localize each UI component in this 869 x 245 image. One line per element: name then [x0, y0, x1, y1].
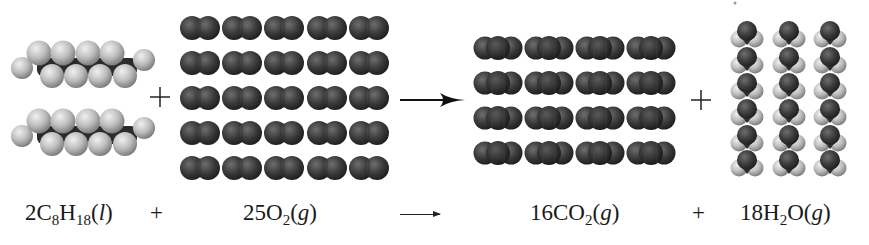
state-symbol: g	[600, 200, 612, 225]
plus-sign: +	[150, 198, 163, 228]
state-symbol: g	[298, 200, 310, 225]
subscript: 2	[283, 212, 291, 228]
plus-icon	[691, 90, 711, 110]
oxygen-molecules-grid	[180, 16, 389, 180]
element: CO	[553, 200, 585, 225]
reaction-diagram: 2C8H18(l) + 25O2(g) 16CO2(g) + 18H2O(g)	[0, 0, 869, 245]
octane-molecules	[11, 41, 155, 157]
coefficient: 2	[25, 200, 37, 225]
plus-icon	[150, 87, 170, 107]
octane-molecule	[11, 109, 155, 157]
state-symbol: g	[811, 200, 823, 225]
equation-carbon-dioxide: 16CO2(g)	[530, 198, 619, 228]
equation-oxygen: 25O2(g)	[243, 198, 317, 228]
coefficient: 25	[243, 200, 266, 225]
element: H	[59, 200, 76, 225]
element: O	[266, 200, 283, 225]
subscript: 18	[76, 212, 91, 228]
coefficient: 18	[740, 200, 763, 225]
subscript: 2	[780, 212, 788, 228]
water-molecules-grid	[731, 21, 847, 177]
equation-arrow-icon	[400, 214, 440, 215]
octane-molecule	[11, 41, 155, 89]
carbon-dioxide-molecules-grid	[474, 36, 676, 165]
molecule-illustration	[0, 0, 869, 245]
coefficient: 16	[530, 200, 553, 225]
element: O	[787, 200, 804, 225]
plus-sign: +	[692, 198, 705, 228]
element: C	[37, 200, 52, 225]
equation-octane: 2C8H18(l)	[25, 198, 113, 228]
equation-water: 18H2O(g)	[740, 198, 831, 228]
edge-artifact	[734, 2, 737, 5]
element: H	[763, 200, 780, 225]
reaction-arrow-icon	[400, 93, 465, 107]
